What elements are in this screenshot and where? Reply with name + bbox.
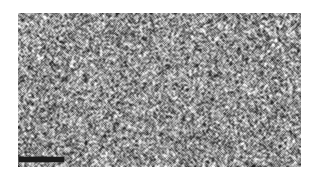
micrograph-figure (0, 0, 315, 179)
micrograph-canvas (18, 13, 301, 167)
micrograph-image (18, 13, 301, 167)
scale-bar (19, 157, 64, 162)
